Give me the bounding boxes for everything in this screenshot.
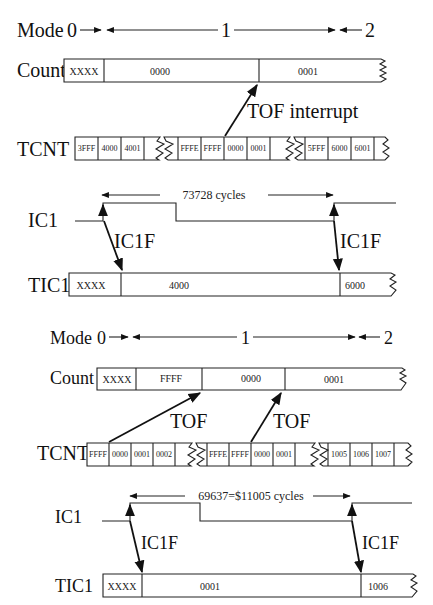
tcnt-cell: 0002 bbox=[156, 450, 172, 459]
tic1-label: TIC1 bbox=[28, 274, 70, 296]
count-label: Count bbox=[17, 59, 66, 81]
tcnt-row-bottom: TCNT FFFF 0000 0001 0002 FFFE FFFF 0000 … bbox=[37, 442, 412, 466]
ic1f-right-arrow bbox=[352, 521, 361, 572]
tcnt-cell: 6001 bbox=[355, 144, 371, 153]
tcnt-label: TCNT bbox=[37, 442, 89, 464]
tof-left-label: TOF bbox=[170, 410, 207, 432]
tof-interrupt-label: TOF interrupt bbox=[247, 100, 359, 123]
ic1f-right-arrow bbox=[334, 221, 339, 270]
tcnt-cell: 0000 bbox=[228, 144, 244, 153]
timing-diagram: Mode 0 1 2 Count XXXX 0000 0001 TOF inte… bbox=[0, 0, 433, 605]
tic1-cell: 4000 bbox=[169, 280, 189, 291]
mode-label: Mode bbox=[50, 328, 92, 348]
tic1-row-bottom: TIC1 XXXX 0001 1006 bbox=[55, 574, 417, 597]
tcnt-label: TCNT bbox=[17, 138, 69, 160]
mode-1-label: 1 bbox=[221, 19, 231, 41]
count-row-bottom: Count XXXX FFFF 0000 0001 bbox=[50, 368, 406, 390]
count-row-top: Count XXXX 0000 0001 bbox=[17, 59, 386, 82]
tic1-cell: 6000 bbox=[345, 280, 365, 291]
count-cell: 0001 bbox=[324, 374, 344, 385]
mode-0-label: 0 bbox=[67, 19, 77, 41]
count-cell: FFFF bbox=[160, 373, 183, 384]
tic1-cell: XXXX bbox=[108, 581, 138, 592]
ic1f-left-label: IC1F bbox=[141, 533, 178, 553]
ic1-row-bottom: 69637=$11005 cycles IC1 IC1F IC1F bbox=[55, 489, 412, 572]
count-cell: 0000 bbox=[241, 373, 261, 384]
period-label: 73728 cycles bbox=[183, 188, 246, 202]
ic1-label: IC1 bbox=[55, 507, 82, 527]
tic1-row-top: TIC1 XXXX 4000 6000 bbox=[28, 273, 396, 296]
tic1-label: TIC1 bbox=[55, 576, 93, 596]
ic1-waveform bbox=[75, 203, 396, 221]
mode-1-label: 1 bbox=[241, 328, 250, 348]
tcnt-row-top: TCNT 3FFF 4000 4001 FFFE FFFF 0000 0001 bbox=[17, 137, 389, 160]
ic1-waveform bbox=[102, 503, 412, 521]
tcnt-cell: 1007 bbox=[375, 450, 391, 459]
ic1f-left-label: IC1F bbox=[114, 230, 155, 252]
tcnt-cell: 0001 bbox=[276, 450, 292, 459]
tcnt-cell: 0001 bbox=[134, 450, 150, 459]
tcnt-cell: 4000 bbox=[102, 144, 118, 153]
tcnt-cell: 3FFF bbox=[78, 144, 96, 153]
count-cell: XXXX bbox=[70, 66, 100, 77]
tcnt-cell: 1006 bbox=[353, 450, 369, 459]
mode-label: Mode bbox=[17, 19, 64, 41]
period-label: 69637=$11005 cycles bbox=[198, 489, 304, 503]
bottom-diagram: Mode 0 1 2 Count XXXX FFFF 0000 0001 TOF… bbox=[37, 328, 417, 597]
tof-right-label: TOF bbox=[273, 410, 310, 432]
ic1-row-top: 73728 cycles IC1 IC1F IC1F bbox=[28, 188, 396, 270]
tcnt-cell: FFFF bbox=[204, 144, 222, 153]
tcnt-cell: 1005 bbox=[331, 450, 347, 459]
mode-0-label: 0 bbox=[97, 328, 106, 348]
mode-2-label: 2 bbox=[384, 328, 393, 348]
tcnt-cell: FFFF bbox=[231, 450, 249, 459]
tcnt-cell: 0000 bbox=[254, 450, 270, 459]
count-cell: XXXX bbox=[103, 374, 133, 385]
count-cell: 0001 bbox=[298, 66, 318, 77]
count-register-box bbox=[64, 59, 386, 82]
tic1-cell: XXXX bbox=[77, 280, 107, 291]
mode-row-bottom: Mode 0 1 2 bbox=[50, 328, 393, 348]
tcnt-cell: 5FFF bbox=[308, 144, 326, 153]
mode-2-label: 2 bbox=[365, 19, 375, 41]
mode-row-top: Mode 0 1 2 bbox=[17, 19, 375, 41]
top-diagram: Mode 0 1 2 Count XXXX 0000 0001 TOF inte… bbox=[17, 19, 396, 296]
count-label: Count bbox=[50, 368, 94, 388]
tcnt-cell: FFFE bbox=[209, 450, 227, 459]
tcnt-cell: 0000 bbox=[112, 450, 128, 459]
tcnt-cell: 4001 bbox=[125, 144, 141, 153]
count-cell: 0000 bbox=[150, 66, 170, 77]
ic1-label: IC1 bbox=[28, 209, 58, 231]
tcnt-cell: FFFE bbox=[180, 144, 198, 153]
ic1f-right-label: IC1F bbox=[362, 533, 399, 553]
tcnt-cell: 6000 bbox=[332, 144, 348, 153]
tic1-cell: 0001 bbox=[200, 581, 220, 592]
tcnt-cell: FFFF bbox=[89, 450, 107, 459]
ic1f-right-label: IC1F bbox=[340, 230, 381, 252]
tic1-cell: 1006 bbox=[368, 581, 388, 592]
tcnt-cell: 0001 bbox=[251, 144, 267, 153]
